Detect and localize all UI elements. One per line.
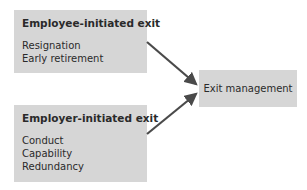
connector-arrows xyxy=(0,0,307,190)
arrow-icon xyxy=(147,42,196,84)
arrow-icon xyxy=(147,94,196,134)
